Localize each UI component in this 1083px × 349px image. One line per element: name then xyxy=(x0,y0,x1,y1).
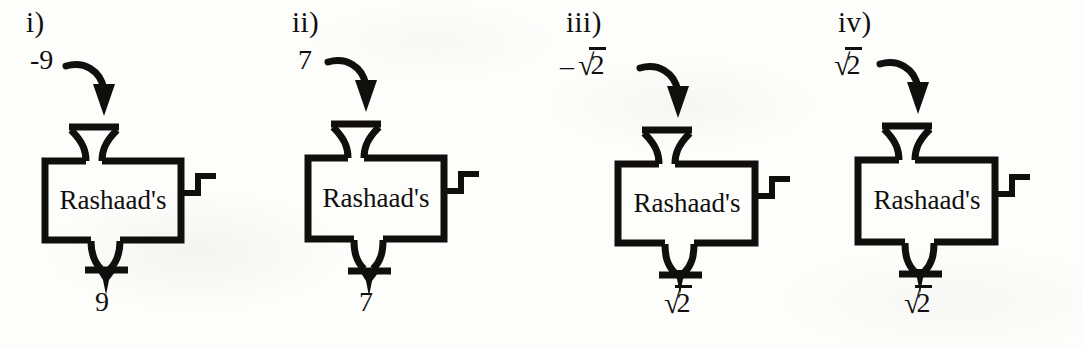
machine-panel-4: iv) √2 xyxy=(812,0,1083,349)
curved-down-arrow-icon xyxy=(640,67,689,118)
crank-handle-icon xyxy=(755,179,790,196)
radicand-label: 2 xyxy=(675,285,692,317)
machine-name-label: Rashaad's xyxy=(634,188,741,218)
radical-icon: √2 xyxy=(902,286,932,318)
function-machine-diagram: Rashaad's xyxy=(266,0,537,349)
output-value-label: √2 xyxy=(660,286,692,318)
curved-down-arrow-icon xyxy=(880,63,929,114)
crank-handle-icon xyxy=(181,176,216,193)
machine-name-label: Rashaad's xyxy=(323,183,430,213)
radical-icon: √2 xyxy=(662,286,692,318)
worksheet-sheet: i) -9 xyxy=(0,0,1083,349)
curved-down-arrow-icon xyxy=(328,61,377,112)
output-value-label: 7 xyxy=(359,288,373,316)
output-value-label: 9 xyxy=(95,288,109,316)
function-machine-diagram: Rashaad's xyxy=(812,0,1083,349)
machine-panel-2: ii) 7 Rashaad's xyxy=(266,0,537,349)
machine-panel-1: i) -9 xyxy=(0,0,271,349)
function-machine-diagram: Rashaad's xyxy=(0,0,271,349)
curved-down-arrow-icon xyxy=(66,65,115,116)
machine-name-label: Rashaad's xyxy=(874,185,981,215)
output-value-label: √2 xyxy=(900,286,932,318)
crank-handle-icon xyxy=(995,177,1030,194)
radicand-label: 2 xyxy=(915,285,932,317)
machine-panel-3: iii) –√2 xyxy=(540,0,811,349)
machine-name-label: Rashaad's xyxy=(60,185,167,215)
crank-handle-icon xyxy=(444,174,479,191)
